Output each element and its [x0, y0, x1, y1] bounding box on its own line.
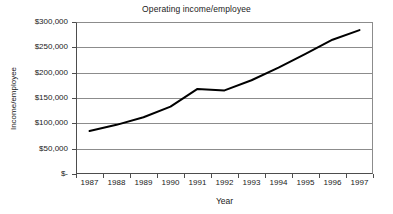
x-axis-tick-mark	[265, 174, 266, 178]
x-axis-tick-mark	[211, 174, 212, 178]
chart-container: Operating income/employee Income/employe…	[0, 0, 393, 214]
x-axis-tick-label: 1992	[216, 178, 234, 187]
x-axis-tick-label: 1987	[81, 178, 99, 187]
x-axis-tick-label: 1996	[324, 178, 342, 187]
x-axis-tick-label: 1997	[351, 178, 369, 187]
y-axis-tick-label: $300,000	[8, 18, 68, 26]
x-axis-tick-label: 1989	[135, 178, 153, 187]
x-axis-tick-label: 1994	[270, 178, 288, 187]
y-axis-tick-label: $200,000	[8, 69, 68, 77]
x-axis-tick-mark	[346, 174, 347, 178]
chart-title: Operating income/employee	[0, 4, 393, 15]
x-axis-tick-label: 1995	[297, 178, 315, 187]
x-axis-tick-label: 1993	[243, 178, 261, 187]
y-axis-tick-label: $100,000	[8, 119, 68, 127]
x-axis-tick-mark	[76, 174, 77, 178]
x-axis-tick-mark	[184, 174, 185, 178]
x-axis-tick-label: 1990	[162, 178, 180, 187]
x-axis-title: Year	[76, 196, 373, 207]
y-axis-tick-label: $50,000	[8, 145, 68, 153]
plot-area	[76, 22, 373, 174]
x-axis-tick-mark	[130, 174, 131, 178]
x-axis-tick-mark	[103, 174, 104, 178]
x-axis-tick-mark	[238, 174, 239, 178]
y-axis-tick-label: $-	[8, 170, 68, 178]
x-axis-tick-mark	[319, 174, 320, 178]
y-axis-tick-label: $150,000	[8, 94, 68, 102]
y-axis-tick-label: $250,000	[8, 43, 68, 51]
x-axis-tick-mark	[373, 174, 374, 178]
x-axis-tick-mark	[157, 174, 158, 178]
x-axis-tick-label: 1988	[108, 178, 126, 187]
x-axis-tick-label: 1991	[189, 178, 207, 187]
x-axis-tick-mark	[292, 174, 293, 178]
data-series-line	[76, 22, 373, 174]
